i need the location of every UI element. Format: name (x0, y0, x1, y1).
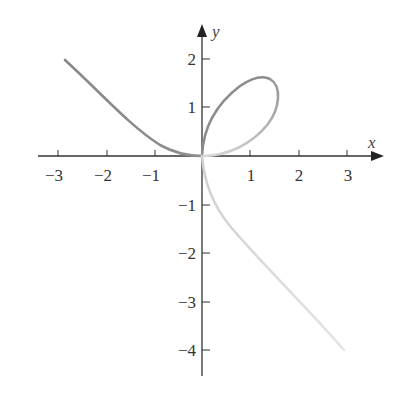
y-tick-label: 1 (188, 98, 197, 117)
x-tick-label: 1 (247, 166, 256, 185)
y-tick-label: 2 (188, 50, 197, 69)
x-tick-label: −1 (142, 166, 160, 185)
x-axis-arrow-icon (371, 151, 384, 161)
y-axis-arrow-icon (197, 24, 207, 37)
y-tick-label: −2 (178, 244, 196, 263)
y-axis (197, 24, 210, 376)
curve-loop-ascending (202, 77, 270, 156)
x-tick-label: −3 (45, 166, 63, 185)
x-tick-label: 2 (295, 166, 304, 185)
chart-plot: −3 −2 −1 1 2 3 2 1 −1 −2 −3 −4 x y (0, 0, 393, 394)
y-tick-label: −4 (178, 341, 197, 360)
y-tick-label: −3 (178, 293, 196, 312)
curve-upper-left-branch (65, 60, 202, 156)
y-axis-label: y (210, 22, 220, 41)
x-tick-label: −2 (94, 166, 112, 185)
x-tick-label: 3 (344, 166, 353, 185)
curve-lower-branch (202, 156, 344, 350)
y-tick-label: −1 (178, 196, 196, 215)
x-tick-labels: −3 −2 −1 1 2 3 (45, 166, 352, 185)
x-axis-label: x (367, 133, 376, 152)
y-tick-labels: 2 1 −1 −2 −3 −4 (178, 50, 197, 360)
